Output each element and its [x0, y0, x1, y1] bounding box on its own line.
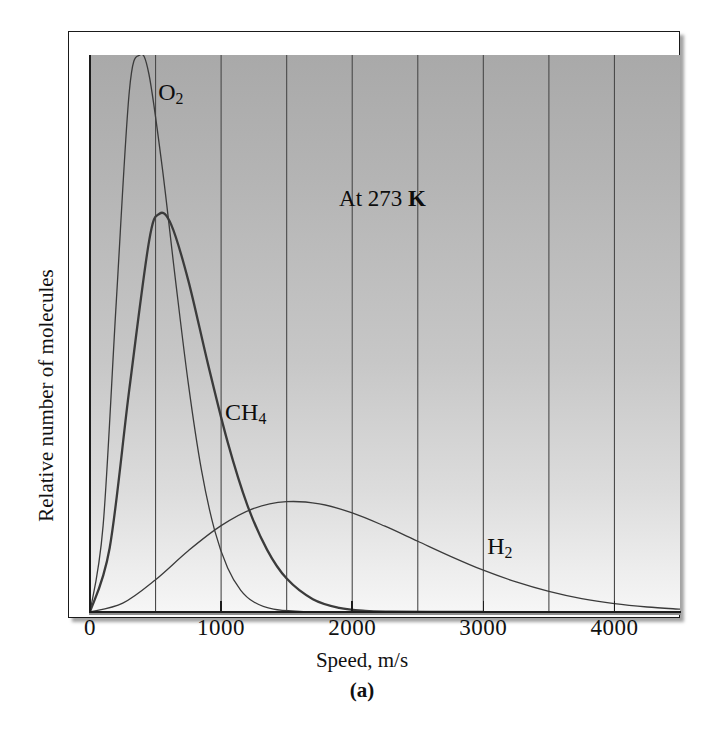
x-axis-tick [351, 601, 353, 612]
curve-label-ch4: CH4 [225, 399, 266, 428]
x-axis-tick [220, 601, 222, 612]
curve-label-subscript: 4 [258, 411, 266, 428]
temperature-annotation: At 273 K [339, 186, 426, 212]
curve-label-base: H [487, 533, 504, 559]
panel-label: (a) [0, 678, 724, 703]
x-axis-tick-label: 4000 [590, 615, 638, 641]
plot-canvas [90, 55, 680, 612]
curve-label-base: CH [225, 399, 258, 425]
x-axis-tick-label: 3000 [459, 615, 507, 641]
x-axis-tick [89, 601, 91, 612]
x-axis-tick-label: 0 [84, 615, 96, 641]
curve-label-subscript: 2 [176, 90, 184, 107]
y-axis-line [89, 55, 91, 613]
curve-h2 [90, 501, 680, 612]
temperature-annotation-text: At 273 [339, 186, 408, 211]
plot-area [90, 55, 680, 612]
x-axis-title: Speed, m/s [0, 648, 724, 673]
distribution-curves [90, 55, 680, 612]
gridlines [156, 55, 615, 612]
x-axis-tick-label: 2000 [328, 615, 376, 641]
temperature-unit: K [408, 186, 426, 211]
x-axis-tick-label: 1000 [197, 615, 245, 641]
x-axis-tick [483, 601, 485, 612]
x-axis-tick [614, 601, 616, 612]
curve-label-base: O [158, 79, 175, 105]
curve-label-o2: O2 [158, 79, 183, 108]
y-axis-title: Relative number of molecules [34, 186, 59, 606]
curve-label-h2: H2 [487, 533, 512, 562]
curve-label-subscript: 2 [505, 544, 513, 561]
